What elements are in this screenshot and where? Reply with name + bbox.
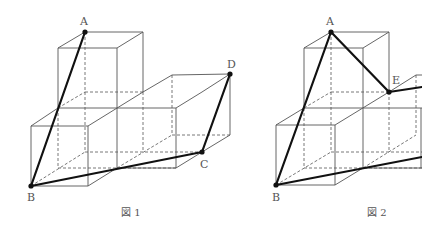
figure-1: A B C D 図 1 xyxy=(27,15,236,218)
point-E xyxy=(386,89,391,94)
caption-figure-1: 図 1 xyxy=(121,207,141,218)
point-B xyxy=(273,182,278,187)
point-A xyxy=(82,29,87,34)
figure-2: A B E 図 2 xyxy=(272,15,422,218)
point-B xyxy=(28,183,33,188)
point-D xyxy=(227,71,232,76)
cube-diagrams: A B C D 図 1 xyxy=(0,0,422,227)
segment-B-right xyxy=(276,157,422,185)
caption-figure-2: 図 2 xyxy=(367,207,387,218)
fig2-bold-path xyxy=(276,32,422,185)
fig1-middle-layer xyxy=(31,74,230,152)
label-E: E xyxy=(392,74,400,87)
fig2-middle-layer xyxy=(276,75,422,152)
label-A: A xyxy=(79,15,89,28)
point-A xyxy=(328,29,333,34)
label-D: D xyxy=(227,58,236,71)
segment-E-right xyxy=(389,87,422,92)
label-C: C xyxy=(200,158,208,171)
segment-CD xyxy=(202,74,230,152)
label-B: B xyxy=(27,191,35,204)
label-A: A xyxy=(325,15,335,28)
label-B: B xyxy=(272,191,280,204)
segment-BC xyxy=(31,152,202,186)
point-C xyxy=(199,149,204,154)
fig2-lower-left-cube xyxy=(276,108,422,185)
segment-AB xyxy=(276,32,331,185)
segment-AE xyxy=(331,32,389,92)
